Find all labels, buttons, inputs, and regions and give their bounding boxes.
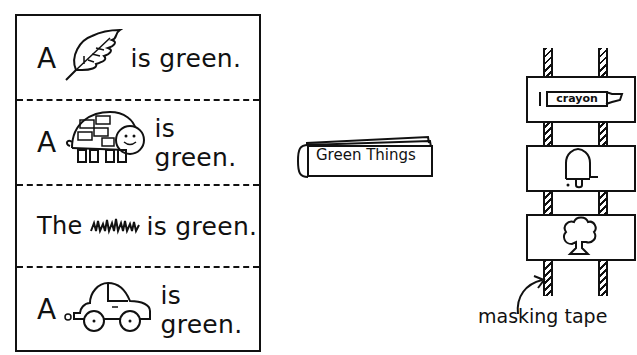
booklet-title: Green Things (316, 146, 416, 164)
strip-suffix: is green. (130, 44, 241, 73)
strip-suffix: is green. (160, 281, 259, 339)
leaf-icon (62, 26, 124, 90)
card-crayon: crayon (526, 76, 636, 123)
sentence-strip-4: A is green. (17, 267, 259, 352)
grass-icon (89, 212, 141, 241)
strip-prefix: A (37, 42, 56, 75)
sentence-strip-1: A is green. (17, 16, 259, 100)
sentence-strip-stack: A is green. A (15, 14, 261, 352)
turtle-icon (62, 108, 148, 178)
strip-prefix: The (37, 212, 83, 240)
masking-tape-caption: masking tape (478, 305, 607, 327)
strip-suffix: is green. (147, 212, 258, 241)
hanging-card-ladder: crayon (500, 40, 637, 300)
strip-suffix: is green. (154, 114, 259, 172)
crayon-label: crayon (546, 91, 608, 107)
strip-prefix: A (37, 126, 56, 159)
sentence-strip-3: The is green. (17, 185, 259, 267)
sentence-strip-2: A is green. (17, 100, 259, 185)
card-bell (526, 145, 636, 192)
card-tree (526, 214, 636, 261)
green-things-booklet: Green Things (296, 135, 434, 179)
strip-prefix: A (37, 293, 56, 326)
car-icon (62, 279, 154, 341)
